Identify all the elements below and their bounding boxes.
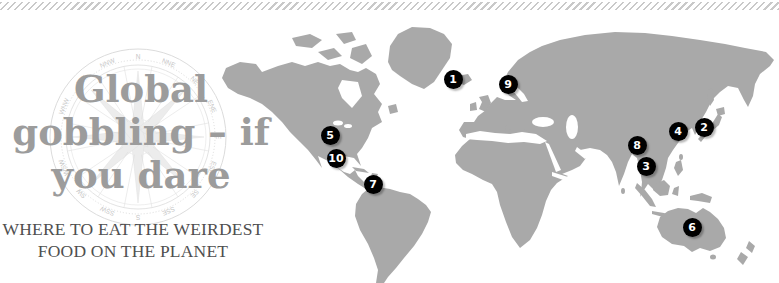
page-title: Global gobbling – if you dare	[0, 68, 282, 197]
sri-lanka	[621, 188, 625, 194]
page-title-line-3: you dare	[0, 154, 282, 197]
philippines	[674, 160, 683, 176]
great-lakes-east	[344, 124, 352, 128]
caspian-sea	[566, 115, 578, 139]
page-subtitle-line-2: FOOD ON THE PLANET	[0, 240, 266, 262]
continent-australia	[657, 208, 726, 252]
page-subtitle-line-1: WHERE TO EAT THE WEIRDEST	[0, 218, 266, 240]
page-subtitle: WHERE TO EAT THE WEIRDEST FOOD ON THE PL…	[0, 218, 266, 262]
greenland	[388, 27, 452, 89]
great-lakes	[333, 121, 343, 126]
page-title-line-2: gobbling – if	[0, 111, 282, 154]
infographic: NNNENEENEEESESESSESSSWSWWSWWWNWNWNNW Glo…	[0, 0, 779, 283]
black-sea	[532, 117, 554, 127]
sulawesi	[672, 186, 679, 196]
iceland	[456, 74, 472, 85]
new-zealand	[737, 241, 755, 265]
taiwan	[679, 154, 683, 160]
page-title-line-1: Global	[0, 68, 282, 111]
continent-south-america	[355, 187, 431, 283]
new-guinea	[690, 193, 712, 203]
tasmania	[710, 255, 716, 260]
